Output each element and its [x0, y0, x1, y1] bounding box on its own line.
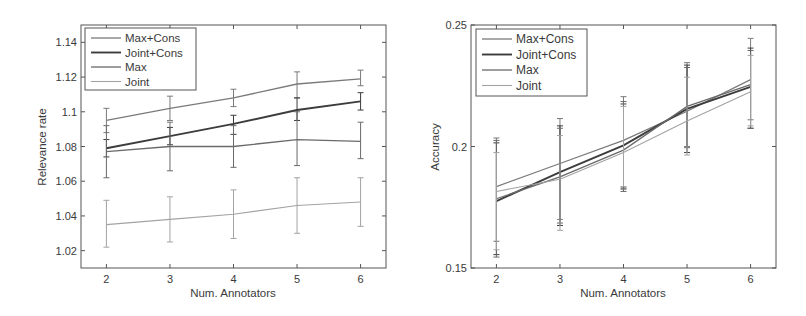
y-tick-label: 1.08 [56, 141, 77, 153]
x-tick-label: 4 [620, 273, 626, 285]
x-axis-label: Num. Annotators [580, 287, 666, 299]
y-tick-label: 1.02 [56, 245, 77, 257]
legend-label: Joint+Cons [125, 47, 183, 59]
y-axis-label: Accuracy [429, 123, 441, 171]
legend-label: Joint+Cons [516, 48, 576, 62]
x-tick-label: 5 [294, 273, 300, 285]
y-tick-label: 1.1 [62, 106, 77, 118]
y-tick-label: 1.04 [56, 210, 77, 222]
relevance-rate-chart: 1.021.041.061.081.11.121.14 23456 Max+Co… [0, 0, 403, 316]
legend: Max+ConsJoint+ConsMaxJoint [476, 29, 587, 96]
x-tick-label: 2 [103, 273, 109, 285]
x-tick-label: 6 [748, 273, 754, 285]
x-tick-label: 5 [684, 273, 690, 285]
y-tick-label: 0.2 [452, 141, 467, 153]
x-tick-label: 2 [493, 273, 499, 285]
x-axis-label: Num. Annotators [190, 287, 276, 299]
y-tick-label: 1.14 [56, 36, 77, 48]
legend-label: Joint [516, 79, 542, 93]
x-tick-label: 4 [230, 273, 236, 285]
legend-label: Max+Cons [125, 32, 181, 44]
figure: 1.021.041.061.081.11.121.14 23456 Max+Co… [0, 0, 806, 316]
x-tick-label: 3 [557, 273, 563, 285]
x-tick-label: 3 [167, 273, 173, 285]
y-axis-label: Relevance rate [36, 108, 48, 185]
y-tick-label: 0.15 [446, 262, 467, 274]
y-tick-label: 1.12 [56, 71, 77, 83]
x-tick-label: 6 [358, 273, 364, 285]
legend-label: Joint [125, 76, 150, 88]
accuracy-chart: 0.150.20.25 23456 Max+ConsJoint+ConsMaxJ… [403, 0, 806, 316]
legend: Max+ConsJoint+ConsMaxJoint [85, 28, 196, 90]
legend-label: Max [516, 63, 539, 77]
legend-label: Max [125, 61, 147, 73]
y-tick-label: 1.06 [56, 175, 77, 187]
y-tick-label: 0.25 [446, 19, 467, 31]
legend-label: Max+Cons [516, 32, 574, 46]
